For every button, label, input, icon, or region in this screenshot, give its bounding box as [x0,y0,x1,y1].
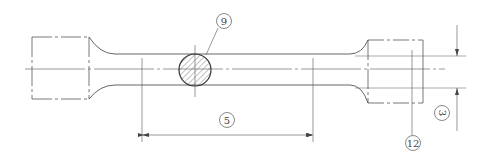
dimension-diameter: 3 [355,25,466,131]
callout-12: 12 [406,50,421,151]
callout-9: 9 [206,14,232,56]
right-grip [368,40,423,103]
dimension-gauge-length: 5 [142,113,313,138]
label-12: 12 [407,138,420,149]
label-9: 9 [221,16,227,27]
specimen-drawing: 9 5 3 12 [0,0,485,161]
left-grip [32,37,89,99]
label-3: 3 [437,110,448,116]
cross-section [179,45,211,97]
label-5: 5 [224,115,230,126]
reduced-section [89,37,368,103]
